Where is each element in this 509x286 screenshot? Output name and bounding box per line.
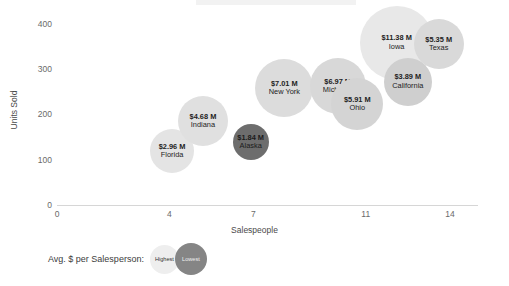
plot-area: $2.96 MFlorida$4.68 MIndiana$1.84 MAlask… <box>57 10 509 205</box>
bubble-name-label: Ohio <box>350 104 366 112</box>
y-tick-label: 300 <box>38 64 52 74</box>
x-tick-label: 4 <box>167 209 172 219</box>
bubble-name-label: New York <box>269 88 300 96</box>
y-tick-label: 200 <box>38 109 52 119</box>
y-axis-label: Units Sold <box>9 80 19 140</box>
bubble-chart: 0100200300400 Units Sold 0471114 Salespe… <box>0 0 509 286</box>
bubble-name-label: Iowa <box>389 43 405 51</box>
y-tick-label: 400 <box>38 19 52 29</box>
legend-title: Avg. $ per Salesperson: <box>48 254 144 264</box>
legend: Avg. $ per Salesperson: Highest Lowest <box>48 243 207 275</box>
x-tick-label: 7 <box>251 209 256 219</box>
legend-swatch-lowest: Lowest <box>175 243 207 275</box>
bubble-texas[interactable]: $5.35 MTexas <box>414 19 464 69</box>
bubble-new-york[interactable]: $7.01 MNew York <box>255 59 313 117</box>
bubble-name-label: Alaska <box>240 142 262 150</box>
bubble-name-label: Indiana <box>191 121 215 129</box>
x-axis-line <box>57 205 478 206</box>
bubble-indiana[interactable]: $4.68 MIndiana <box>178 96 228 146</box>
y-axis: 0100200300400 <box>0 0 52 286</box>
bubble-name-label: Florida <box>161 151 184 159</box>
bubble-alaska[interactable]: $1.84 MAlaska <box>233 124 269 160</box>
y-tick-label: 0 <box>47 200 52 210</box>
top-decoration-band <box>196 0 356 5</box>
y-tick-label: 100 <box>38 155 52 165</box>
x-axis-label: Salespeople <box>0 225 509 235</box>
x-tick-label: 14 <box>445 209 454 219</box>
bubble-name-label: Texas <box>429 44 448 52</box>
bubble-name-label: California <box>392 82 423 90</box>
bubble-ohio[interactable]: $5.91 MOhio <box>331 78 383 130</box>
x-tick-label: 11 <box>361 209 370 219</box>
x-tick-label: 0 <box>55 209 60 219</box>
